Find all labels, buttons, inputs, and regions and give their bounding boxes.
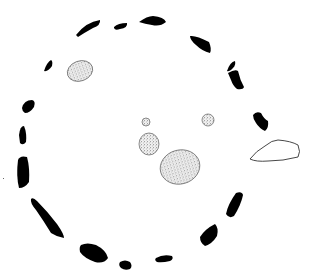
ring-stone-s10	[17, 156, 29, 188]
ring-stone-s13	[119, 261, 131, 270]
survey-marks	[3, 178, 4, 179]
stone-circle-plan	[0, 0, 319, 280]
ring-stone-s16	[226, 192, 243, 217]
ring-stone-s9	[19, 126, 26, 144]
ring-stone-s3	[139, 16, 166, 26]
outlying-stone-o1	[250, 140, 300, 161]
outlying-stones	[250, 140, 300, 161]
interior-stone-i1	[64, 57, 95, 85]
ring-stone-s8	[22, 100, 35, 113]
ring-stone-s4	[190, 36, 211, 53]
interior-stone-i5	[156, 145, 203, 188]
interior-stone-i4	[139, 133, 159, 155]
interior-stone-i2	[142, 118, 150, 126]
ring-stone-s11	[31, 198, 64, 238]
interior-stones	[64, 57, 214, 188]
ring-stone-s7	[44, 60, 52, 71]
ring-stone-s5b	[228, 70, 244, 89]
ring-stone-s1	[76, 20, 100, 37]
ring-stone-s15	[200, 224, 218, 246]
ring-stone-s12	[80, 244, 108, 263]
ring-stone-s14	[155, 255, 172, 262]
interior-stone-i3	[202, 114, 214, 126]
survey-mark	[3, 178, 4, 179]
ring-stone-s5a	[227, 61, 235, 71]
ring-stone-s6	[253, 112, 268, 131]
ring-stone-s2	[114, 23, 127, 30]
